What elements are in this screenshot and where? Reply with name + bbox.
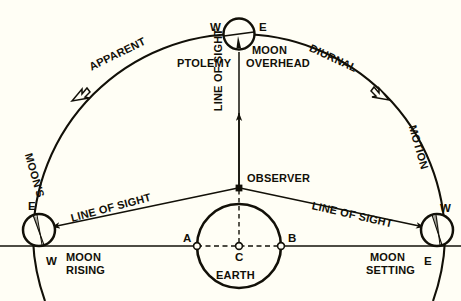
point-c-marker [236,243,243,250]
point-b-marker [278,243,285,250]
point-a-label: A [183,233,192,245]
rising-moon-west-label: W [46,256,57,268]
top-moon-east-label: E [259,22,267,34]
moon-setting-group [421,214,453,246]
celestial-arc-tail-left [33,240,45,301]
ptolemy-diagram: W E PTOLEMY MOON OVERHEAD MOON'S APPAREN… [0,0,461,301]
point-a-marker [194,243,201,250]
point-c-label: C [235,252,244,264]
moon-rising-label-line1: MOON [66,252,101,263]
moon-setting-label-line2: SETTING [366,265,415,276]
moon-rising-group [23,214,55,246]
point-b-label: B [288,233,297,245]
earth-label: EARTH [216,270,255,281]
observer-label: OBSERVER [247,173,310,184]
line-of-sight-vertical-label: LINE OF SIGHT [213,29,224,112]
setting-moon-west-label: W [440,203,451,215]
motion-arrow-left [72,88,90,101]
moon-overhead-label-line1: MOON [252,45,287,56]
motion-arrow-right [371,87,389,100]
setting-moon-east-label: E [424,256,432,268]
moon-rising-label-line2: RISING [66,265,105,276]
celestial-arc-tail-right [433,240,445,301]
moon-overhead-label-line2: OVERHEAD [246,58,310,69]
moon-overhead-group [224,19,255,50]
moon-setting-label-line1: MOON [370,252,405,263]
rising-moon-east-label: E [28,201,36,213]
